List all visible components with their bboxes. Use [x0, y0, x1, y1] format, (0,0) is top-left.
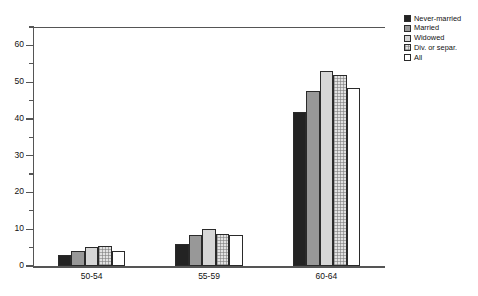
y-axis-tick-label: 30 — [2, 151, 24, 160]
x-axis-line — [33, 266, 385, 268]
legend-item-label: Div. or separ. — [414, 44, 457, 52]
legend-swatch-icon — [404, 25, 411, 32]
legend-item-married[interactable]: Married — [404, 24, 478, 33]
bar-50-54-married — [71, 251, 85, 266]
y-axis-tick-label: 0 — [2, 261, 24, 270]
bar-group — [58, 27, 126, 266]
bar-60-64-all — [347, 88, 361, 266]
legend-item-div-or-separ[interactable]: Div. or separ. — [404, 43, 478, 52]
y-axis-tick-label: 60 — [2, 40, 24, 49]
legend-item-widowed[interactable]: Widowed — [404, 34, 478, 43]
bar-chart: 0102030405060 50-5455-5960-64 Never-marr… — [0, 0, 478, 296]
x-axis-label-55-59: 55-59 — [179, 272, 239, 281]
legend-swatch-icon — [404, 44, 411, 51]
bar-60-64-div-or-separ — [333, 75, 347, 266]
bar-60-64-never-married — [293, 112, 307, 266]
bar-50-54-all — [112, 251, 126, 266]
legend-item-label: All — [414, 54, 422, 62]
legend-item-all[interactable]: All — [404, 53, 478, 62]
legend-swatch-icon — [404, 35, 411, 42]
y-axis-tick-label: 20 — [2, 187, 24, 196]
bar-55-59-widowed — [202, 229, 216, 266]
legend-item-label: Married — [414, 24, 439, 32]
legend-item-label: Never-married — [414, 15, 461, 23]
x-axis-label-50-54: 50-54 — [62, 272, 122, 281]
bar-50-54-widowed — [85, 247, 99, 266]
bar-50-54-div-or-separ — [98, 246, 112, 266]
bar-55-59-all — [229, 235, 243, 266]
bar-group — [175, 27, 243, 266]
bar-55-59-married — [189, 235, 203, 266]
bar-50-54-never-married — [58, 255, 72, 266]
bar-55-59-never-married — [175, 244, 189, 266]
chart-legend: Never-marriedMarriedWidowedDiv. or separ… — [404, 14, 478, 63]
legend-swatch-icon — [404, 54, 411, 61]
bars-layer — [33, 27, 385, 266]
y-axis-tick-label: 10 — [2, 224, 24, 233]
y-axis-tick-label: 50 — [2, 77, 24, 86]
bar-60-64-widowed — [320, 71, 334, 266]
bar-group — [293, 27, 361, 266]
legend-item-never-married[interactable]: Never-married — [404, 14, 478, 23]
bar-60-64-married — [306, 91, 320, 266]
bar-55-59-div-or-separ — [216, 234, 230, 266]
x-axis-label-60-64: 60-64 — [296, 272, 356, 281]
y-axis-tick-label: 40 — [2, 114, 24, 123]
legend-swatch-icon — [404, 15, 411, 22]
legend-item-label: Widowed — [414, 34, 444, 42]
